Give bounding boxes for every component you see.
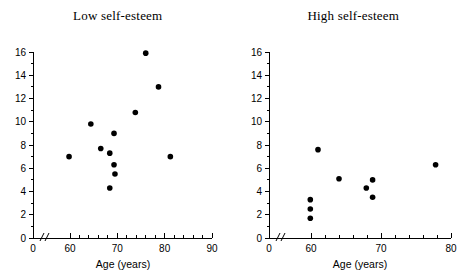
data-point — [133, 110, 139, 116]
data-point — [107, 185, 113, 191]
data-point — [369, 177, 375, 183]
y-tick-label: 2 — [256, 209, 262, 220]
y-tick-label: 14 — [250, 70, 262, 81]
y-tick-label: 0 — [20, 233, 26, 244]
plot-area-low: 0246810121416060708090Age (years) — [0, 0, 236, 279]
y-tick-label: 10 — [15, 116, 27, 127]
y-tick-label: 16 — [15, 47, 27, 58]
x-tick-label: 70 — [375, 243, 387, 254]
axis-break-mark — [45, 233, 49, 241]
x-axis-title: Age (years) — [332, 258, 386, 270]
data-point — [143, 50, 149, 56]
y-tick-label: 12 — [15, 93, 27, 104]
x-tick-label: 60 — [305, 243, 317, 254]
panel-low-self-esteem: Low self-esteem 0246810121416060708090Ag… — [0, 0, 236, 279]
scatter-plot-figure: Low self-esteem 0246810121416060708090Ag… — [0, 0, 471, 279]
y-tick-label: 8 — [20, 140, 26, 151]
data-point — [307, 206, 313, 212]
data-point — [98, 146, 104, 152]
data-point — [168, 154, 174, 160]
x-tick-label: 80 — [445, 243, 457, 254]
x-tick-label: 70 — [112, 243, 124, 254]
data-point — [432, 162, 438, 168]
y-tick-label: 2 — [20, 209, 26, 220]
data-point — [111, 162, 117, 168]
y-tick-label: 12 — [250, 93, 262, 104]
data-point — [307, 215, 313, 221]
data-point — [88, 121, 94, 127]
x-tick-label: 0 — [30, 243, 36, 254]
y-tick-label: 6 — [20, 163, 26, 174]
data-point — [307, 197, 313, 203]
data-point — [107, 150, 113, 156]
x-axis-title: Age (years) — [96, 258, 150, 270]
axis-break-mark — [276, 233, 280, 241]
y-tick-label: 16 — [250, 47, 262, 58]
x-tick-label: 80 — [159, 243, 171, 254]
axis-break-mark — [40, 233, 44, 241]
y-tick-label: 14 — [15, 70, 27, 81]
data-point — [156, 84, 162, 90]
x-tick-label: 60 — [64, 243, 76, 254]
y-tick-label: 4 — [256, 186, 262, 197]
y-tick-label: 10 — [250, 116, 262, 127]
data-point — [112, 171, 118, 177]
x-tick-label: 0 — [266, 243, 272, 254]
data-point — [111, 131, 117, 137]
y-tick-label: 4 — [20, 186, 26, 197]
y-tick-label: 0 — [256, 233, 262, 244]
axis-break-mark — [281, 233, 285, 241]
data-point — [363, 185, 369, 191]
data-point — [66, 154, 72, 160]
y-tick-label: 8 — [256, 140, 262, 151]
data-point — [315, 147, 321, 153]
plot-area-high: 02468101214160607080Age (years) — [236, 0, 471, 279]
y-tick-label: 6 — [256, 163, 262, 174]
panel-high-self-esteem: High self-esteem 02468101214160607080Age… — [236, 0, 471, 279]
data-point — [336, 176, 342, 182]
x-tick-label: 90 — [206, 243, 218, 254]
data-point — [369, 195, 375, 201]
